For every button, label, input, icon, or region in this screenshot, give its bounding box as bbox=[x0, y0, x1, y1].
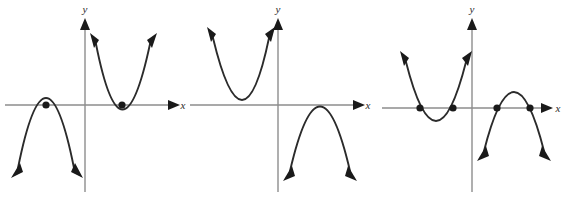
root-dot bbox=[416, 104, 423, 111]
upward-parabola-above-axis-curve bbox=[213, 38, 269, 100]
graph-1-canvas: x y bbox=[0, 0, 190, 200]
graph-panel-2: x y bbox=[185, 0, 375, 200]
y-axis-label: y bbox=[469, 3, 475, 15]
downward-parabola-two-roots-arrow-right bbox=[539, 146, 551, 161]
root-dot bbox=[493, 104, 500, 111]
upward-parabola-above-axis-arrow-left bbox=[207, 27, 216, 42]
upward-parabola-two-roots-curve bbox=[406, 62, 466, 121]
upward-parabola-right-arrow-right bbox=[147, 33, 157, 48]
x-axis-arrowhead bbox=[541, 103, 553, 113]
x-axis-arrowhead bbox=[353, 100, 365, 110]
upward-parabola-right-curve bbox=[96, 44, 150, 110]
downward-parabola-left-arrow-left bbox=[11, 163, 23, 178]
y-axis-label: y bbox=[82, 3, 88, 15]
upward-parabola-two-roots-arrow-right bbox=[462, 51, 472, 66]
graph-panel-1: x y bbox=[0, 0, 190, 200]
root-dot bbox=[42, 101, 49, 108]
upward-parabola-two-roots-arrow-left bbox=[400, 51, 409, 66]
x-axis-arrowhead bbox=[168, 100, 180, 110]
root-dot bbox=[449, 104, 456, 111]
graph-panel-3: x y bbox=[370, 0, 564, 200]
y-axis-label: y bbox=[275, 3, 281, 15]
figure-root: x y x y bbox=[0, 0, 564, 200]
graph-3-canvas: x y bbox=[370, 0, 564, 200]
downward-parabola-two-roots-arrow-left bbox=[477, 146, 489, 161]
downward-parabola-two-roots-curve bbox=[484, 92, 544, 151]
downward-parabola-below-axis-arrow-right bbox=[345, 166, 357, 181]
y-axis-arrowhead bbox=[467, 18, 477, 30]
downward-parabola-below-axis-arrow-left bbox=[283, 166, 295, 181]
upward-parabola-above-axis-arrow-right bbox=[265, 27, 275, 42]
graph-2-canvas: x y bbox=[185, 0, 375, 200]
root-dot bbox=[118, 101, 125, 108]
x-axis-label: x bbox=[555, 102, 561, 114]
downward-parabola-below-axis-curve bbox=[290, 107, 350, 172]
root-dot bbox=[526, 104, 533, 111]
upward-parabola-right-arrow-left bbox=[90, 33, 99, 48]
y-axis-arrowhead bbox=[80, 18, 90, 30]
